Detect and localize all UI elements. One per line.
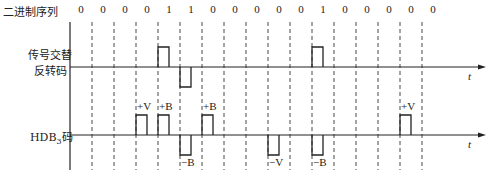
pulse-label: +B (203, 100, 217, 112)
hdb3-time-axis-label: t (468, 138, 471, 150)
hdb3-pulse (400, 115, 411, 135)
hdb3-pulse (312, 135, 323, 155)
arrow-icon (478, 133, 486, 138)
hdb3-pulse (202, 115, 213, 135)
pulse-label: +V (137, 100, 151, 112)
pulse-label: +V (401, 100, 415, 112)
waveform-diagram (0, 0, 493, 184)
ami-pulse (312, 47, 323, 67)
arrow-icon (478, 65, 486, 70)
hdb3-pulse (268, 135, 279, 155)
pulse-label: +B (159, 100, 173, 112)
hdb3-pulse (158, 115, 169, 135)
pulse-label: −B (181, 156, 195, 168)
ami-pulse (180, 67, 191, 87)
ami-pulse (158, 47, 169, 67)
pulse-label: −B (313, 156, 327, 168)
ami-time-axis-label: t (468, 70, 471, 82)
hdb3-pulse (180, 135, 191, 155)
hdb3-pulse (136, 115, 147, 135)
pulse-label: −V (269, 156, 283, 168)
